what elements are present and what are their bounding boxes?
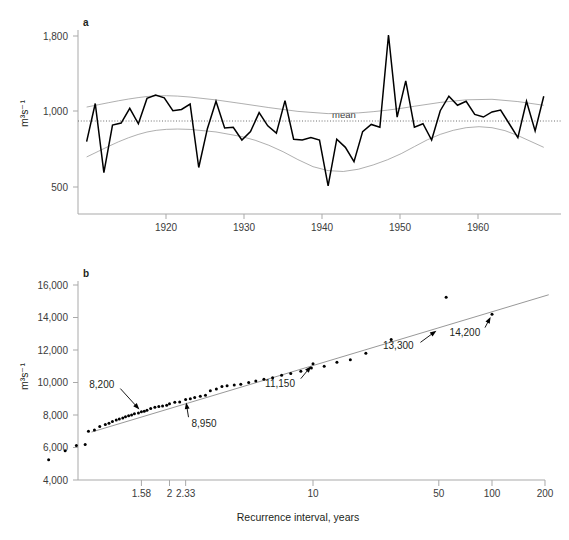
annotation-arrowhead-13300 [430, 331, 437, 337]
scatter-point [157, 405, 160, 408]
annotation-label-13300: 13,300 [383, 340, 414, 351]
annotation-arrowhead-14200 [485, 317, 490, 324]
scatter-point [204, 394, 207, 397]
panel-b-y-tick-label-10000: 10,000 [37, 377, 68, 388]
scatter-point [127, 414, 130, 417]
scatter-point [133, 412, 136, 415]
panel-b-y-tick-label-12000: 12,000 [37, 345, 68, 356]
panel-a: a 1,800 1,000 500 m³s⁻¹ 1920 193 [18, 17, 561, 233]
scatter-point [173, 401, 176, 404]
scatter-point [239, 383, 242, 386]
panel-b-y-tick-label-8000: 8,000 [43, 410, 68, 421]
scatter-point [168, 402, 171, 405]
scatter-point [140, 410, 143, 413]
scatter-point [335, 361, 338, 364]
scatter-point [143, 410, 146, 413]
scatter-point [209, 389, 212, 392]
scatter-point [130, 414, 133, 417]
scatter-point [104, 423, 107, 426]
scatter-point [323, 365, 326, 368]
scatter-point [184, 398, 187, 401]
panel-b-x-tick-label-2: 2 [167, 488, 173, 499]
panel-b-y-ticks: 4,0006,0008,00010,00012,00014,00016,000 [37, 280, 78, 486]
scatter-point [137, 412, 140, 415]
annotation-leader-8200 [120, 389, 136, 407]
panel-b-x-tick-label-200: 200 [537, 488, 554, 499]
scatter-point [64, 449, 67, 452]
panel-a-y-ticks: 1,800 1,000 500 [43, 31, 78, 193]
scatter-point [84, 443, 87, 446]
figure-svg: a 1,800 1,000 500 m³s⁻¹ 1920 193 [0, 0, 569, 540]
figure-container: a 1,800 1,000 500 m³s⁻¹ 1920 193 [0, 0, 569, 540]
x-tick-label-1930: 1930 [233, 222, 256, 233]
scatter-point [364, 352, 367, 355]
scatter-point [280, 374, 283, 377]
mean-label: mean [332, 109, 356, 120]
panel-b-x-tick-label-50: 50 [433, 488, 445, 499]
y-tick-label-500: 500 [51, 182, 68, 193]
scatter-point [289, 372, 292, 375]
scatter-point [193, 396, 196, 399]
scatter-point [247, 381, 250, 384]
scatter-point [226, 384, 229, 387]
scatter-point [145, 409, 148, 412]
y-tick-label-1000: 1,000 [43, 106, 68, 117]
scatter-point [165, 404, 168, 407]
panel-b-y-tick-label-14000: 14,000 [37, 312, 68, 323]
scatter-point [149, 407, 152, 410]
scatter-point [349, 358, 352, 361]
panel-b-x-tick-label-100: 100 [484, 488, 501, 499]
upper-envelope-curve [87, 96, 544, 114]
discharge-time-series [87, 35, 544, 186]
panel-b-y-tick-label-16000: 16,000 [37, 280, 68, 291]
scatter-point [299, 370, 302, 373]
annotation-label-11150: 11,150 [265, 378, 295, 389]
scatter-point [98, 425, 101, 428]
panel-b-x-tick-label-10: 10 [307, 488, 319, 499]
panel-b-x-tick-label-1.58: 1.58 [132, 488, 152, 499]
scatter-point [93, 428, 96, 431]
scatter-point [445, 296, 448, 299]
scatter-point [199, 395, 202, 398]
panel-b-x-tick-label-2.33: 2.33 [176, 488, 196, 499]
scatter-point [215, 388, 218, 391]
scatter-point [254, 379, 257, 382]
scatter-point [312, 362, 315, 365]
panel-b: b 4,0006,0008,00010,00012,00014,00016,00… [18, 268, 554, 523]
scatter-point [233, 383, 236, 386]
panel-a-x-ticks: 1920 1930 1940 1950 1960 [155, 214, 490, 233]
annotation-label-8950: 8,950 [191, 418, 216, 429]
scatter-point [115, 418, 118, 421]
panel-b-y-tick-label-4000: 4,000 [43, 475, 68, 486]
panel-b-x-axis-title: Recurrence interval, years [237, 511, 360, 523]
annotation-label-8200: 8,200 [89, 379, 114, 390]
scatter-point [111, 420, 114, 423]
x-tick-label-1940: 1940 [311, 222, 334, 233]
panel-a-letter: a [83, 17, 89, 28]
scatter-point [124, 415, 127, 418]
scatter-point [87, 430, 90, 433]
panel-b-x-ticks: 1.5822.331050100200 [132, 480, 554, 499]
x-tick-label-1950: 1950 [389, 222, 412, 233]
scatter-point [121, 416, 124, 419]
annotation-label-14200: 14,200 [450, 327, 481, 338]
scatter-point [491, 313, 494, 316]
scatter-point [178, 401, 181, 404]
scatter-point [153, 406, 156, 409]
panel-a-y-axis-title: m³s⁻¹ [18, 100, 30, 127]
scatter-point [220, 385, 223, 388]
x-tick-label-1920: 1920 [155, 222, 178, 233]
scatter-point [118, 417, 121, 420]
panel-b-y-axis-title: m³s⁻¹ [18, 363, 30, 390]
scatter-point [107, 422, 110, 425]
lower-envelope-curve [87, 127, 544, 172]
y-tick-label-1800: 1,800 [43, 31, 68, 42]
scatter-point [47, 458, 50, 461]
scatter-point [75, 444, 78, 447]
panel-b-letter: b [83, 268, 89, 279]
scatter-point [161, 404, 164, 407]
gumbel-fit-line [92, 295, 549, 432]
x-tick-label-1960: 1960 [467, 222, 490, 233]
scatter-point [189, 397, 192, 400]
